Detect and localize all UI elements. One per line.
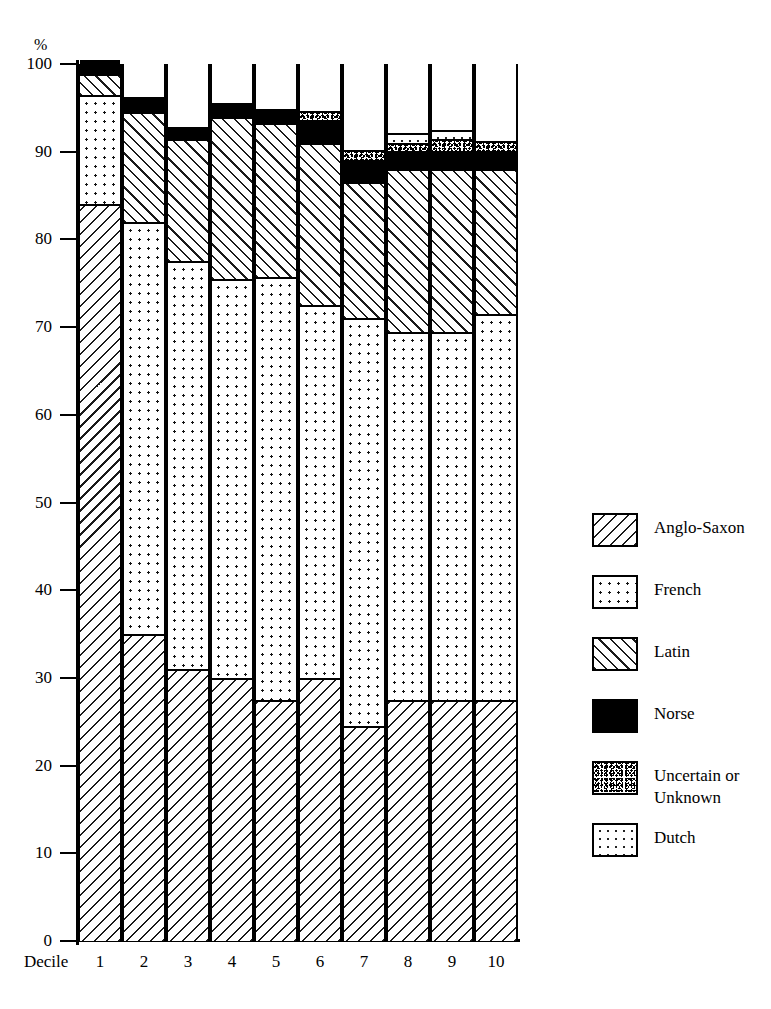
legend-item: Dutch [592, 823, 768, 885]
bar-segment-norse [388, 151, 428, 169]
legend-item: Norse [592, 699, 768, 761]
x-axis-tick-label: 9 [430, 952, 474, 972]
legend-item: French [592, 575, 768, 637]
legend-label: French [654, 579, 701, 601]
legend: Anglo-SaxonFrenchLatinNorseUncertain or … [592, 513, 768, 885]
x-axis-tick-label: 2 [122, 952, 166, 972]
y-axis-tick-label: 20 [0, 757, 52, 774]
bar-segment-latin [476, 169, 516, 314]
y-axis-tick [60, 502, 76, 504]
bar-segment-french [124, 222, 164, 634]
bar-segment-latin [344, 182, 384, 318]
bar-segment-anglo-saxon [388, 700, 428, 941]
bar-segment-norse [256, 109, 296, 123]
legend-item: Anglo-Saxon [592, 513, 768, 575]
y-axis-tick [60, 414, 76, 416]
x-axis-tick-label: 1 [78, 952, 122, 972]
bar-decile-2 [122, 64, 166, 941]
bar-decile-9 [430, 64, 474, 941]
legend-swatch-diagonal-slash-hatch [592, 637, 638, 671]
y-axis-tick [60, 765, 76, 767]
x-axis-tick-label: 3 [166, 952, 210, 972]
y-axis-tick [60, 63, 76, 65]
bar-segment-uncertain-or-unknown [432, 139, 472, 151]
bar-segment-anglo-saxon [344, 726, 384, 941]
bar-segment-anglo-saxon [256, 700, 296, 941]
bar-segment-latin [256, 123, 296, 277]
y-axis-tick-label: 10 [0, 844, 52, 861]
bar-segment-anglo-saxon [124, 634, 164, 941]
bar-segment-latin [300, 143, 340, 305]
bar-segment-anglo-saxon [476, 700, 516, 941]
bar-segment-norse [476, 151, 516, 169]
y-axis-tick-label: 90 [0, 143, 52, 160]
y-axis-tick [60, 852, 76, 854]
legend-swatch-dense-speckle [592, 761, 638, 795]
y-axis-tick-label: 40 [0, 581, 52, 598]
bar-segment-french [256, 277, 296, 700]
y-axis-tick-label: 100 [0, 55, 52, 72]
legend-item: Latin [592, 637, 768, 699]
bar-segment-norse [344, 160, 384, 183]
bar-segment-uncertain-or-unknown [388, 143, 428, 151]
bar-segment-french [344, 318, 384, 726]
bar-segment-latin [388, 169, 428, 331]
bar-decile-4 [210, 64, 254, 941]
x-axis-tick-label: 6 [298, 952, 342, 972]
bar-segment-uncertain-or-unknown [476, 141, 516, 151]
bar-segment-uncertain-or-unknown [344, 150, 384, 160]
legend-swatch-dot-grid [592, 575, 638, 609]
plot-area [78, 64, 518, 941]
legend-label: Latin [654, 641, 690, 663]
y-axis-tick [60, 677, 76, 679]
y-axis-tick [60, 238, 76, 240]
bar-segment-norse [432, 151, 472, 169]
bar-segment-anglo-saxon [80, 204, 120, 941]
bar-decile-5 [254, 64, 298, 941]
bar-segment-french [80, 95, 120, 205]
y-axis-tick [60, 326, 76, 328]
bar-segment-dutch [432, 130, 472, 139]
x-axis-tick-label: 7 [342, 952, 386, 972]
x-axis-tick-label: 10 [474, 952, 518, 972]
bar-decile-3 [166, 64, 210, 941]
bar-segment-latin [212, 117, 252, 279]
y-axis-tick-label: 60 [0, 406, 52, 423]
x-axis-title: Decile [24, 952, 68, 972]
x-axis-tick-label: 4 [210, 952, 254, 972]
bar-segment-latin [124, 112, 164, 222]
bar-segment-french [212, 279, 252, 678]
bar-segment-french [432, 332, 472, 700]
bar-segment-latin [432, 169, 472, 331]
bar-segment-norse [212, 103, 252, 117]
bar-segment-french [300, 305, 340, 678]
y-axis-tick [60, 589, 76, 591]
bar-segment-norse [300, 120, 340, 143]
bar-segment-anglo-saxon [168, 669, 208, 941]
y-axis-tick-label: 70 [0, 318, 52, 335]
bar-segment-anglo-saxon [300, 678, 340, 941]
chart-page: % 0102030405060708090100 12345678910 Dec… [0, 0, 771, 1009]
bar-segment-latin [80, 74, 120, 95]
legend-label: Anglo-Saxon [654, 517, 745, 539]
legend-swatch-solid-black [592, 699, 638, 733]
x-axis-tick-label: 5 [254, 952, 298, 972]
legend-item: Uncertain or Unknown [592, 761, 768, 823]
bar-segment-french [476, 314, 516, 700]
bar-segment-norse [168, 127, 208, 139]
bar-segment-dutch [388, 133, 428, 143]
bar-segment-norse [80, 60, 120, 74]
bar-decile-1 [78, 64, 122, 941]
y-axis-tick-label: 30 [0, 669, 52, 686]
bar-segment-dutch [80, 56, 120, 60]
bar-segment-french [388, 332, 428, 700]
bar-segment-french [168, 261, 208, 669]
bar-decile-6 [298, 64, 342, 941]
bar-decile-10 [474, 64, 518, 941]
bar-decile-7 [342, 64, 386, 941]
bar-segment-anglo-saxon [432, 700, 472, 941]
bar-segment-norse [124, 97, 164, 112]
bar-segment-latin [168, 139, 208, 261]
y-axis-tick-label: 50 [0, 494, 52, 511]
y-axis-unit-label: % [34, 36, 47, 54]
